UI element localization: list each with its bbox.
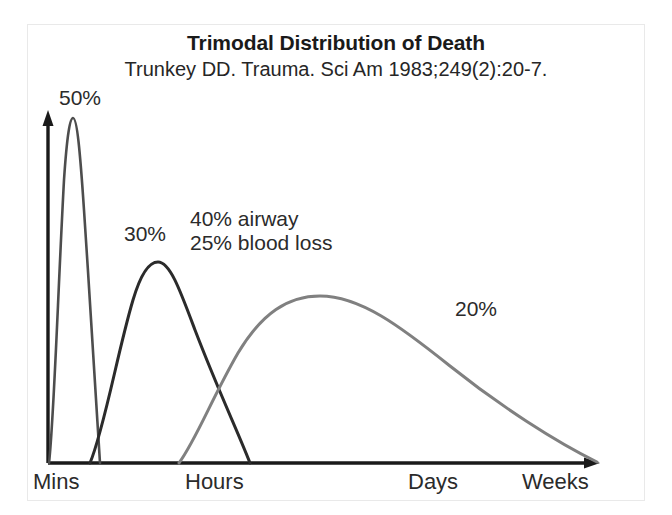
- x-tick-label-mins: Mins: [33, 470, 79, 494]
- cause-blood-loss-label: 25% blood loss: [190, 231, 332, 255]
- curve-early-deaths: [90, 262, 250, 463]
- x-tick-label-days: Days: [408, 470, 458, 494]
- cause-annotation-group: 40% airway 25% blood loss: [190, 207, 332, 255]
- peak2-label: 30%: [124, 222, 166, 246]
- x-axis: [48, 458, 600, 469]
- peak1-label: 50%: [59, 86, 101, 110]
- cause-airway-label: 40% airway: [190, 207, 332, 231]
- figure-trimodal-distribution: Trimodal Distribution of Death Trunkey D…: [0, 0, 672, 515]
- curve-late-deaths: [179, 296, 597, 463]
- x-tick-label-weeks: Weeks: [522, 470, 589, 494]
- x-tick-label-hours: Hours: [185, 470, 244, 494]
- peak3-label: 20%: [455, 297, 497, 321]
- curve-immediate-deaths: [49, 118, 100, 463]
- chart-plot-area: [0, 0, 672, 515]
